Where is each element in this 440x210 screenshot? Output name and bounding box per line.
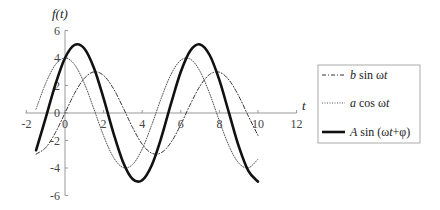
y-axis-label: f(t) <box>52 6 68 21</box>
y-tick-label: 0 <box>54 106 60 120</box>
x-tick-label: 0 <box>62 117 68 131</box>
y-tick-label: -2 <box>50 134 60 148</box>
x-tick-label: 12 <box>291 117 303 131</box>
legend-label: b sin ωt <box>350 68 388 82</box>
y-tick-label: -4 <box>50 161 60 175</box>
x-axis-label: t <box>302 98 306 113</box>
axes: -2024681012 -6-4-20246 f(t) t <box>21 6 306 203</box>
y-tick-label: 6 <box>54 24 60 38</box>
x-tick-label: 10 <box>252 117 264 131</box>
x-tick-label: 4 <box>139 117 145 131</box>
x-tick-label: 8 <box>216 117 222 131</box>
x-tick-label: 2 <box>101 117 107 131</box>
legend: b sin ωta cos ωtA sin (ωt+φ) <box>318 65 420 143</box>
chart: -2024681012 -6-4-20246 f(t) t b sin ωta … <box>0 0 440 210</box>
y-tick-label: -6 <box>50 189 60 203</box>
legend-label: a cos ωt <box>350 96 390 110</box>
legend-label: A sin (ωt+φ) <box>349 125 410 139</box>
x-tick-label: -2 <box>21 117 31 131</box>
